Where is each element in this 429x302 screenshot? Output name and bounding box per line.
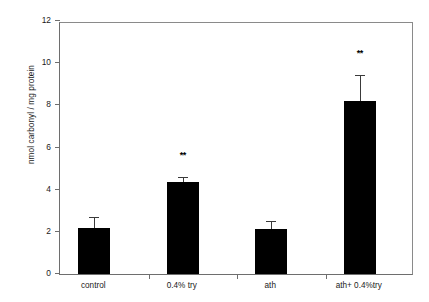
error-bar <box>271 222 272 228</box>
x-axis-label: control <box>81 281 106 290</box>
y-tick: 6 <box>55 147 60 148</box>
error-bar-cap <box>178 177 188 178</box>
error-bar-cap <box>355 75 365 76</box>
y-tick: 2 <box>55 231 60 232</box>
bar <box>255 229 287 274</box>
x-axis-label: ath <box>265 281 276 290</box>
bar <box>78 228 110 274</box>
x-tick <box>149 274 150 279</box>
y-axis-title: nmol carbonyl / mg protein <box>27 40 36 190</box>
y-tick: 8 <box>55 104 60 105</box>
y-tick: 12 <box>55 20 60 21</box>
error-bar-cap <box>266 221 276 222</box>
error-bar-cap <box>89 217 99 218</box>
y-tick-label: 2 <box>46 226 51 236</box>
significance-marker: ** <box>357 49 363 58</box>
significance-marker: ** <box>180 151 186 160</box>
bar <box>344 101 376 274</box>
x-tick <box>326 274 327 279</box>
x-axis-label: 0.4% try <box>167 281 197 290</box>
error-bar <box>183 178 184 182</box>
plot-area: 024681012 **** <box>59 22 413 275</box>
error-bar <box>94 218 95 227</box>
bar-chart-figure: nmol carbonyl / mg protein 024681012 ***… <box>0 0 429 302</box>
y-tick-label: 6 <box>46 142 51 152</box>
y-tick-label: 8 <box>46 99 51 109</box>
y-tick: 10 <box>55 62 60 63</box>
y-tick: 0 <box>55 273 60 274</box>
error-bar <box>360 76 361 101</box>
y-tick: 4 <box>55 189 60 190</box>
y-tick-label: 10 <box>42 57 51 67</box>
y-tick-label: 12 <box>42 15 51 25</box>
x-axis-label: ath+ 0.4%try <box>336 281 382 290</box>
y-tick-label: 0 <box>46 268 51 278</box>
bar <box>167 182 199 274</box>
x-tick <box>237 274 238 279</box>
y-tick-label: 4 <box>46 184 51 194</box>
